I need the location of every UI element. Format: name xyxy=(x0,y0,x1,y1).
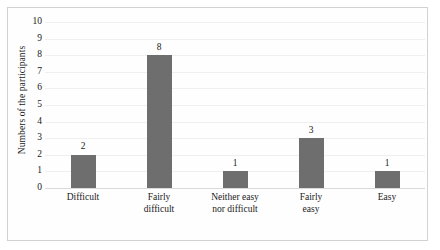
bar[interactable] xyxy=(299,138,324,188)
bar-value-label: 2 xyxy=(45,142,121,152)
y-axis-tick-9: 9 xyxy=(26,34,42,44)
x-axis-label-line: Neither easy xyxy=(197,192,273,204)
x-axis-label-line: Difficult xyxy=(45,192,121,204)
x-axis-baseline xyxy=(45,188,425,189)
bar-group: 2 xyxy=(45,22,121,188)
bars-container: 28131 xyxy=(45,22,425,188)
bar[interactable] xyxy=(223,171,248,188)
y-axis-tick-5: 5 xyxy=(26,100,42,110)
bar-group: 1 xyxy=(197,22,273,188)
y-axis-tick-labels: 109876543210 xyxy=(26,22,42,188)
x-axis-label-line: difficult xyxy=(121,204,197,216)
x-axis-label-line: Fairly xyxy=(273,192,349,204)
x-axis-label-line: Easy xyxy=(349,192,425,204)
bar-value-label: 3 xyxy=(273,126,349,136)
x-axis-label: Easy xyxy=(349,192,425,224)
bar[interactable] xyxy=(71,155,96,188)
y-axis-tick-2: 2 xyxy=(26,150,42,160)
bar-value-label: 8 xyxy=(121,43,197,53)
x-axis-label: Neither easynor difficult xyxy=(197,192,273,224)
y-axis-tick-3: 3 xyxy=(26,133,42,143)
y-axis-tick-8: 8 xyxy=(26,50,42,60)
x-axis-category-labels: DifficultFairlydifficultNeither easynor … xyxy=(45,192,425,224)
bar-group: 8 xyxy=(121,22,197,188)
x-axis-label: Fairlydifficult xyxy=(121,192,197,224)
x-axis-label-line: nor difficult xyxy=(197,204,273,216)
bar-value-label: 1 xyxy=(197,159,273,169)
bar[interactable] xyxy=(147,55,172,188)
bar-group: 3 xyxy=(273,22,349,188)
x-axis-label: Difficult xyxy=(45,192,121,224)
x-axis-label-line: easy xyxy=(273,204,349,216)
y-axis-tick-0: 0 xyxy=(26,183,42,193)
x-axis-label-line: Fairly xyxy=(121,192,197,204)
bar-value-label: 1 xyxy=(349,159,425,169)
bar-chart: Numbers of the participants 109876543210… xyxy=(0,0,440,250)
x-axis-label: Fairlyeasy xyxy=(273,192,349,224)
y-axis-tick-10: 10 xyxy=(26,17,42,27)
y-axis-tick-4: 4 xyxy=(26,117,42,127)
y-axis-tick-1: 1 xyxy=(26,167,42,177)
y-axis-tick-6: 6 xyxy=(26,84,42,94)
bar[interactable] xyxy=(375,171,400,188)
y-axis-tick-7: 7 xyxy=(26,67,42,77)
bar-group: 1 xyxy=(349,22,425,188)
